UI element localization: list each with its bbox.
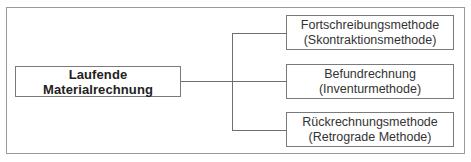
child-node-title: Fortschreibungsmethode bbox=[301, 18, 439, 33]
root-node-box: Laufende Materialrechnung bbox=[15, 66, 181, 97]
connector-root-horizontal bbox=[181, 81, 233, 82]
child-node-title: Befundrechnung bbox=[324, 67, 416, 82]
connector-trunk-vertical bbox=[232, 33, 233, 131]
connector-branch-3 bbox=[232, 130, 286, 131]
root-node-label: Laufende Materialrechnung bbox=[16, 67, 180, 97]
child-node-rueckrechnungsmethode: Rückrechnungsmethode (Retrograde Methode… bbox=[286, 112, 454, 147]
child-node-befundrechnung: Befundrechnung (Inventurmethode) bbox=[286, 64, 454, 99]
child-node-title: Rückrechnungsmethode bbox=[302, 115, 438, 130]
child-node-subtitle: (Skontraktionsmethode) bbox=[304, 33, 437, 48]
connector-branch-1 bbox=[232, 33, 286, 34]
connector-branch-2 bbox=[232, 81, 286, 82]
child-node-subtitle: (Inventurmethode) bbox=[319, 82, 421, 97]
child-node-subtitle: (Retrograde Methode) bbox=[309, 130, 432, 145]
child-node-fortschreibungsmethode: Fortschreibungsmethode (Skontraktionsmet… bbox=[286, 15, 454, 50]
